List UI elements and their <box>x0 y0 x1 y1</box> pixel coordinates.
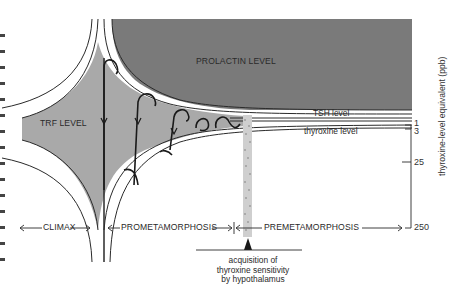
stage-premetamorphosis: PREMETAMORPHOSIS <box>264 222 359 232</box>
stage-climax: CLIMAX <box>43 222 76 232</box>
axis-tick-3: 3 <box>414 126 419 136</box>
endocrine-metamorphosis-diagram <box>0 0 461 284</box>
sensitivity-band <box>243 115 252 237</box>
stage-prometamorphosis: PROMETAMORPHOSIS <box>121 222 217 232</box>
event-caption-line-3: by hypothalamus <box>203 275 303 284</box>
event-caption: acquisition of thyroxine sensitivity by … <box>203 256 303 284</box>
axis-tick-250: 250 <box>414 222 429 232</box>
thyroxine-level-label: thyroxine level <box>304 126 358 136</box>
tsh-level-label: TSH level <box>313 108 349 118</box>
axis-label: thyroxine-level equivalent (ppb) <box>437 57 447 176</box>
prolactin-level-label: PROLACTIN LEVEL <box>196 56 276 66</box>
thyroxine-axis <box>402 125 411 228</box>
axis-tick-25: 25 <box>414 157 424 167</box>
trf-level-label: TRF LEVEL <box>40 118 87 128</box>
event-arrow-icon <box>244 238 252 250</box>
